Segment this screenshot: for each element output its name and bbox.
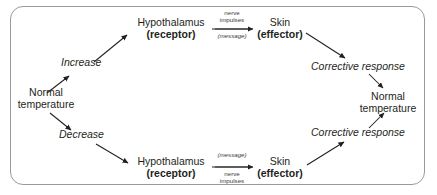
arrow-label-nerve-impulses-top: nerve impulses — [220, 9, 244, 24]
hypothalamus-bottom-line2: (receptor) — [137, 167, 204, 179]
arrow-label-message-top: (message) — [217, 32, 246, 39]
skin-bottom-line1: Skin — [257, 155, 303, 167]
hypothalamus-bottom-line1: Hypothalamus — [137, 155, 204, 167]
node-increase: Increase — [61, 56, 101, 68]
node-hypothalamus-top: Hypothalamus (receptor) — [137, 16, 204, 41]
node-corrective-response-bottom: Corrective response — [311, 126, 405, 138]
skin-bottom-line2: (effector) — [257, 167, 303, 179]
node-normal-temperature-start: Normal temperature — [18, 86, 75, 111]
node-corrective-response-top: Corrective response — [311, 60, 405, 72]
diagram-canvas: Normal temperature Increase Hypothalamus… — [0, 0, 437, 195]
node-skin-top: Skin (effector) — [257, 16, 303, 41]
nerve-impulses-bottom-line2: impulses — [220, 177, 244, 184]
skin-top-line2: (effector) — [257, 28, 303, 40]
normal-temperature-start-line1: Normal — [18, 86, 75, 98]
arrow-label-nerve-impulses-bottom: nerve impulses — [220, 170, 244, 185]
node-decrease: Decrease — [59, 128, 104, 140]
normal-temperature-start-line2: temperature — [18, 98, 75, 110]
node-skin-bottom: Skin (effector) — [257, 155, 303, 180]
node-normal-temperature-end: Normal temperature — [360, 90, 417, 115]
nerve-impulses-bottom-line1: nerve — [220, 170, 244, 177]
skin-top-line1: Skin — [257, 16, 303, 28]
nerve-impulses-top-line1: nerve — [220, 9, 244, 16]
node-hypothalamus-bottom: Hypothalamus (receptor) — [137, 155, 204, 180]
arrow-label-message-bottom: (message) — [217, 151, 246, 158]
normal-temperature-end-line2: temperature — [360, 102, 417, 114]
hypothalamus-top-line1: Hypothalamus — [137, 16, 204, 28]
normal-temperature-end-line1: Normal — [360, 90, 417, 102]
hypothalamus-top-line2: (receptor) — [137, 28, 204, 40]
nerve-impulses-top-line2: impulses — [220, 16, 244, 23]
